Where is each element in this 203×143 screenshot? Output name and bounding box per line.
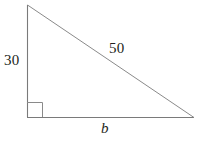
horizontal-leg-label: b [101,121,109,136]
right-angle-marker-icon [27,103,43,118]
hypotenuse-label: 50 [109,41,124,56]
hypotenuse-line [28,5,195,118]
vertical-leg-label: 30 [4,53,19,68]
right-triangle-figure: 30 50 b [0,0,203,143]
